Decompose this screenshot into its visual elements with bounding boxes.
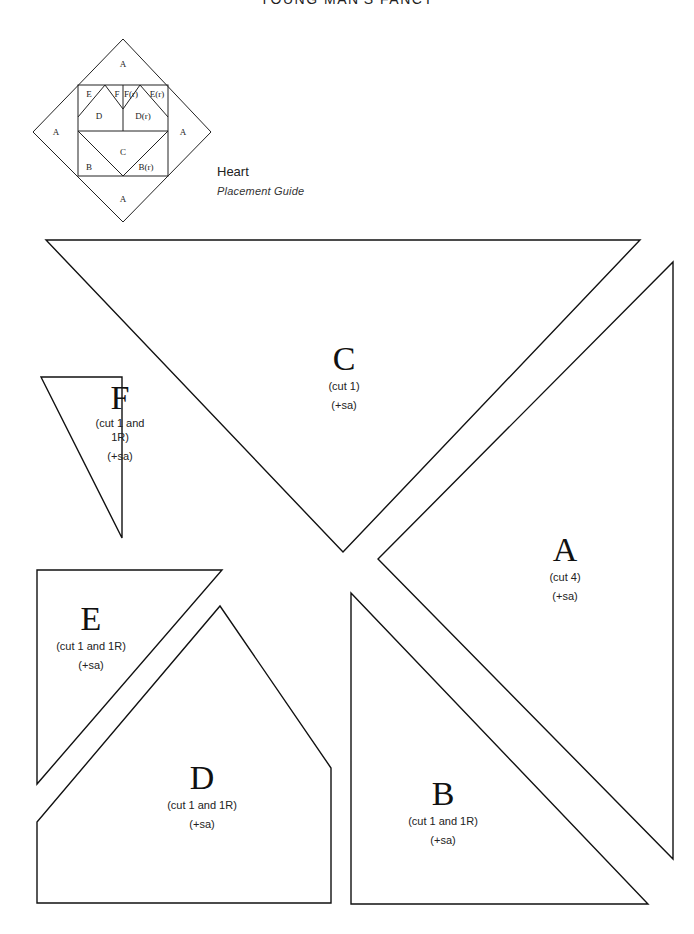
placement-guide-subtitle: Placement Guide (217, 185, 304, 197)
piece-d-label: D (cut 1 and 1R) (+sa) (167, 760, 237, 834)
piece-a-letter: A (549, 532, 580, 568)
block-name: Heart (217, 164, 304, 179)
guide-label-a-bottom: A (120, 194, 127, 204)
piece-c-sa: (+sa) (328, 396, 359, 415)
piece-a-cut: (cut 4) (549, 568, 580, 587)
guide-label-b: B (86, 162, 92, 172)
piece-e-cut: (cut 1 and 1R) (56, 637, 126, 656)
piece-b-sa: (+sa) (408, 831, 478, 850)
guide-label-fr: F(r) (124, 89, 138, 99)
piece-c-label: C (cut 1) (+sa) (328, 341, 359, 415)
piece-f-label: F (cut 1 and 1R) (+sa) (92, 380, 148, 466)
piece-c-letter: C (328, 341, 359, 377)
guide-label-dr: D(r) (135, 111, 151, 121)
guide-label-e: E (86, 89, 92, 99)
piece-c-cut: (cut 1) (328, 377, 359, 396)
guide-label-br: B(r) (139, 162, 154, 172)
guide-label-a-top: A (120, 59, 127, 69)
piece-d-cut: (cut 1 and 1R) (167, 796, 237, 815)
piece-a-label: A (cut 4) (+sa) (549, 532, 580, 606)
guide-label-d: D (96, 111, 103, 121)
piece-a-sa: (+sa) (549, 587, 580, 606)
piece-e-letter: E (56, 601, 126, 637)
piece-b-letter: B (408, 776, 478, 812)
guide-label-er: E(r) (150, 89, 165, 99)
guide-label-a-right: A (180, 127, 187, 137)
piece-d-letter: D (167, 760, 237, 796)
piece-d-sa: (+sa) (167, 815, 237, 834)
piece-b-label: B (cut 1 and 1R) (+sa) (408, 776, 478, 850)
guide-label-c: C (120, 147, 126, 157)
piece-b-cut: (cut 1 and 1R) (408, 812, 478, 831)
guide-label-a-left: A (53, 127, 60, 137)
piece-f-sa: (+sa) (92, 447, 148, 466)
piece-e-label: E (cut 1 and 1R) (+sa) (56, 601, 126, 675)
piece-f-letter: F (92, 380, 148, 416)
placement-guide-caption: Heart Placement Guide (217, 164, 304, 197)
piece-e-sa: (+sa) (56, 656, 126, 675)
piece-f-cut: (cut 1 and 1R) (92, 416, 148, 444)
pattern-sheet: A A A A E F F(r) E(r) D D(r) C B B(r) (0, 0, 694, 934)
guide-label-f: F (114, 89, 119, 99)
